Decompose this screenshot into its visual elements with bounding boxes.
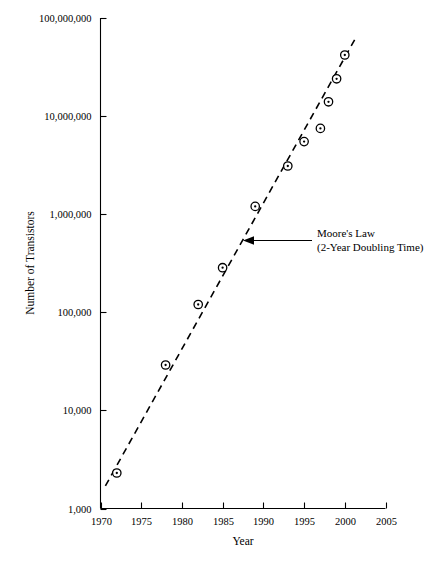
- data-point: [161, 361, 169, 369]
- data-point-center-dot: [327, 101, 329, 103]
- data-point-center-dot: [319, 127, 321, 129]
- annotation-label-line2: (2-Year Doubling Time): [317, 241, 424, 254]
- data-point: [284, 162, 292, 170]
- x-tick-label: 2000: [335, 516, 356, 527]
- data-point-center-dot: [254, 205, 256, 207]
- data-point: [218, 264, 226, 272]
- y-tick-label: 1,000: [68, 504, 92, 515]
- moores-law-chart-figure: 1,00010,000100,0001,000,00010,000,000100…: [0, 0, 435, 568]
- x-tick-label: 2005: [376, 516, 397, 527]
- data-point-center-dot: [344, 54, 346, 56]
- x-tick-label: 1970: [91, 516, 112, 527]
- x-axis-title: Year: [232, 535, 253, 547]
- data-point: [300, 137, 308, 145]
- y-axis-title: Number of Transistors: [24, 211, 36, 315]
- data-point-center-dot: [221, 267, 223, 269]
- y-tick-label: 100,000: [57, 307, 91, 318]
- y-axis-ticks: [101, 19, 107, 510]
- data-point: [113, 469, 121, 477]
- x-tick-label: 1980: [172, 516, 193, 527]
- data-point-center-dot: [197, 303, 199, 305]
- x-axis-tick-labels: 19701975198019851990199520002005: [91, 516, 397, 527]
- data-point: [332, 75, 340, 83]
- data-point-center-dot: [116, 472, 118, 474]
- x-tick-label: 1990: [253, 516, 274, 527]
- data-point: [194, 300, 202, 308]
- moores-law-trend-line: [105, 38, 355, 486]
- y-tick-label: 1,000,000: [50, 209, 92, 220]
- data-point-center-dot: [287, 165, 289, 167]
- x-tick-label: 1975: [131, 516, 152, 527]
- x-axis-ticks: [102, 503, 387, 509]
- annotation-label-line1: Moore's Law: [317, 227, 375, 239]
- data-point-center-dot: [303, 140, 305, 142]
- annotation-arrow-head: [243, 236, 254, 245]
- data-point: [316, 124, 324, 132]
- x-tick-label: 1985: [213, 516, 234, 527]
- data-point: [341, 51, 349, 59]
- data-point-center-dot: [335, 78, 337, 80]
- y-tick-label: 10,000: [63, 405, 92, 416]
- data-point-center-dot: [164, 364, 166, 366]
- y-tick-label: 100,000,000: [39, 13, 92, 24]
- y-axis-tick-labels: 1,00010,000100,0001,000,00010,000,000100…: [39, 13, 92, 515]
- annotation-arrow: [243, 236, 312, 245]
- data-point: [324, 98, 332, 106]
- chart-canvas: 1,00010,000100,0001,000,00010,000,000100…: [0, 0, 435, 568]
- y-tick-label: 10,000,000: [44, 111, 91, 122]
- data-point: [251, 202, 259, 210]
- x-tick-label: 1995: [294, 516, 315, 527]
